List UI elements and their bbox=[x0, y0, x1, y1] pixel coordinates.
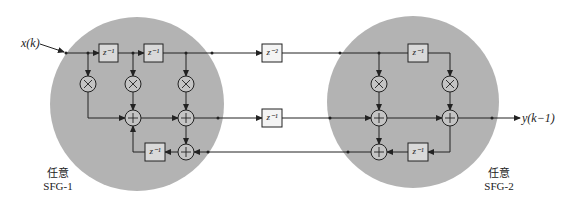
delay-label: z⁻¹ bbox=[408, 145, 428, 158]
sfg1-label: 任意 SFG-1 bbox=[38, 167, 78, 193]
sfg1-region bbox=[50, 17, 224, 191]
sfg2-label: 任意 SFG-2 bbox=[479, 167, 519, 193]
delay-label: z⁻² bbox=[262, 46, 282, 59]
delay-label: z⁻¹ bbox=[145, 145, 165, 158]
input-label: x(k) bbox=[21, 36, 40, 51]
delay-label: z⁻¹ bbox=[144, 46, 163, 59]
input-arrow bbox=[40, 44, 64, 52]
delay-label: z⁻¹ bbox=[262, 111, 282, 124]
sfg2-region bbox=[327, 16, 499, 188]
delay-label: z⁻¹ bbox=[99, 46, 118, 59]
output-label: y(k−1) bbox=[522, 111, 555, 126]
delay-label: z⁻¹ bbox=[408, 46, 428, 59]
